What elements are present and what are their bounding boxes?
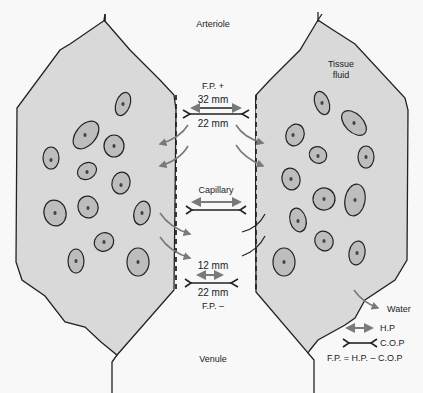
venule-label: Venule xyxy=(199,355,227,364)
venous-hp-value: 12 mm xyxy=(198,261,229,271)
left-tissue-region xyxy=(16,14,176,355)
legend-cop-bar-icon xyxy=(343,339,377,347)
capillary-exchange-diagram: Arteriole F.P. + 32 mm 22 mm Tissue flui… xyxy=(0,0,423,393)
arterial-fp-label: F.P. + xyxy=(202,82,224,91)
tissue-fluid-label-line2: fluid xyxy=(333,71,350,80)
legend-hp-label: H.P xyxy=(380,324,395,333)
diagram-graphics xyxy=(0,0,423,393)
capillary-label: Capillary xyxy=(198,186,233,195)
tissue-fluid-label-line1: Tissue xyxy=(328,60,354,69)
water-label: Water xyxy=(387,305,411,314)
venous-cop-value: 22 mm xyxy=(198,288,229,298)
arteriole-label: Arteriole xyxy=(196,20,230,29)
arterial-cop-value: 22 mm xyxy=(198,119,229,129)
venous-fp-label: F.P. – xyxy=(202,302,224,311)
legend-cop-label: C.O.P xyxy=(380,339,405,348)
arterial-hp-value: 32 mm xyxy=(198,95,229,105)
legend-formula: F.P. = H.P. – C.O.P xyxy=(327,354,402,363)
